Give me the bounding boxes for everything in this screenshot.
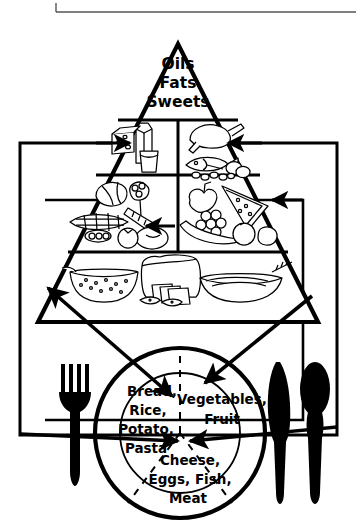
apex-label-line-2: Fats: [160, 74, 197, 92]
plate-produce-line-1: Vegetables,: [177, 391, 267, 407]
plate-protein-line-1: Cheese,: [160, 452, 220, 468]
food-pyramid-figure: Oils Fats Sweets: [0, 0, 356, 528]
apex-label-line-1: Oils: [161, 55, 194, 73]
plate-produce-line-2: Fruit: [204, 411, 240, 427]
plate-grains-line-1: Bread,: [127, 383, 177, 399]
figure-canvas: Oils Fats Sweets: [0, 0, 356, 528]
plate-grains-line-3: Potato,: [118, 421, 174, 437]
plate-grains-line-2: Rice,: [129, 402, 166, 418]
plate-protein-line-2: Eggs, Fish,: [148, 471, 231, 487]
apex-label-line-3: Sweets: [146, 93, 209, 111]
plate-protein-line-3: Meat: [169, 490, 208, 506]
